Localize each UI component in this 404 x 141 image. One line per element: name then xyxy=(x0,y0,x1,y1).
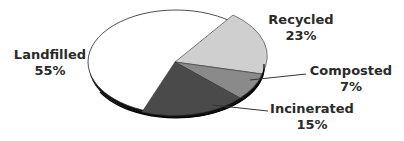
label-landfilled-name: Landfilled xyxy=(12,47,88,63)
label-incinerated: Incinerated 15% xyxy=(268,101,356,133)
label-composted: Composted 7% xyxy=(306,63,396,95)
label-composted-pct: 7% xyxy=(306,79,396,95)
label-composted-name: Composted xyxy=(306,63,396,79)
label-recycled-name: Recycled xyxy=(263,12,339,28)
label-landfilled-pct: 55% xyxy=(12,63,88,79)
label-recycled: Recycled 23% xyxy=(263,12,339,44)
label-recycled-pct: 23% xyxy=(263,28,339,44)
label-incinerated-pct: 15% xyxy=(268,117,356,133)
label-incinerated-name: Incinerated xyxy=(268,101,356,117)
label-landfilled: Landfilled 55% xyxy=(12,47,88,79)
